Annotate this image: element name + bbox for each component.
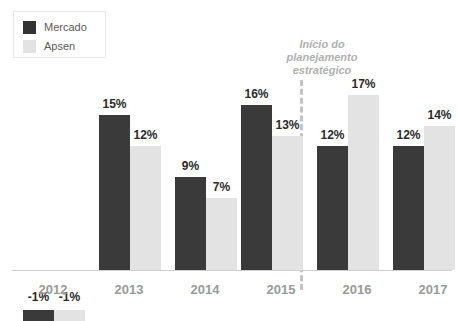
bar-label-2014-apsen: 7% <box>203 180 240 194</box>
bar-2014-apsen[interactable]: 7% <box>206 198 237 270</box>
bar-2017-apsen[interactable]: 14% <box>424 126 455 270</box>
x-axis-label-2017: 2017 <box>395 282 459 297</box>
bar-label-2013-mercado: 15% <box>96 97 133 111</box>
bar-2016-mercado[interactable]: 12% <box>317 146 348 270</box>
annotation-line-3: estratégico <box>262 64 382 77</box>
axis-baseline <box>12 270 452 271</box>
x-axis-label-2013: 2013 <box>91 282 167 297</box>
bar-2015-mercado[interactable]: 16% <box>241 105 272 270</box>
bar-label-2014-mercado: 9% <box>172 159 209 173</box>
strategy-annotation: Início do planejamento estratégico <box>262 38 382 77</box>
bar-label-2016-mercado: 12% <box>314 128 351 142</box>
annotation-line-2: planejamento <box>262 51 382 64</box>
x-axis-label-2016: 2016 <box>319 282 395 297</box>
x-axis-label-2012: 2012 <box>15 282 91 297</box>
bar-2016-apsen[interactable]: 17% <box>348 95 379 270</box>
bar-2013-apsen[interactable]: 12% <box>130 146 161 270</box>
bar-2013-mercado[interactable]: 15% <box>99 115 130 270</box>
bar-2015-apsen[interactable]: 13% <box>272 136 303 270</box>
bar-label-2015-apsen: 13% <box>269 118 306 132</box>
bar-label-2015-mercado: 16% <box>238 87 275 101</box>
bar-label-2017-mercado: 12% <box>390 128 427 142</box>
x-axis-label-2014: 2014 <box>167 282 243 297</box>
bar-2014-mercado[interactable]: 9% <box>175 177 206 270</box>
x-axis-label-2015: 2015 <box>243 282 319 297</box>
annotation-line-1: Início do <box>262 38 382 51</box>
bar-label-2013-apsen: 12% <box>127 128 164 142</box>
bar-label-2017-apsen: 14% <box>421 108 458 122</box>
bar-2017-mercado[interactable]: 12% <box>393 146 424 270</box>
bar-label-2016-apsen: 17% <box>345 77 382 91</box>
